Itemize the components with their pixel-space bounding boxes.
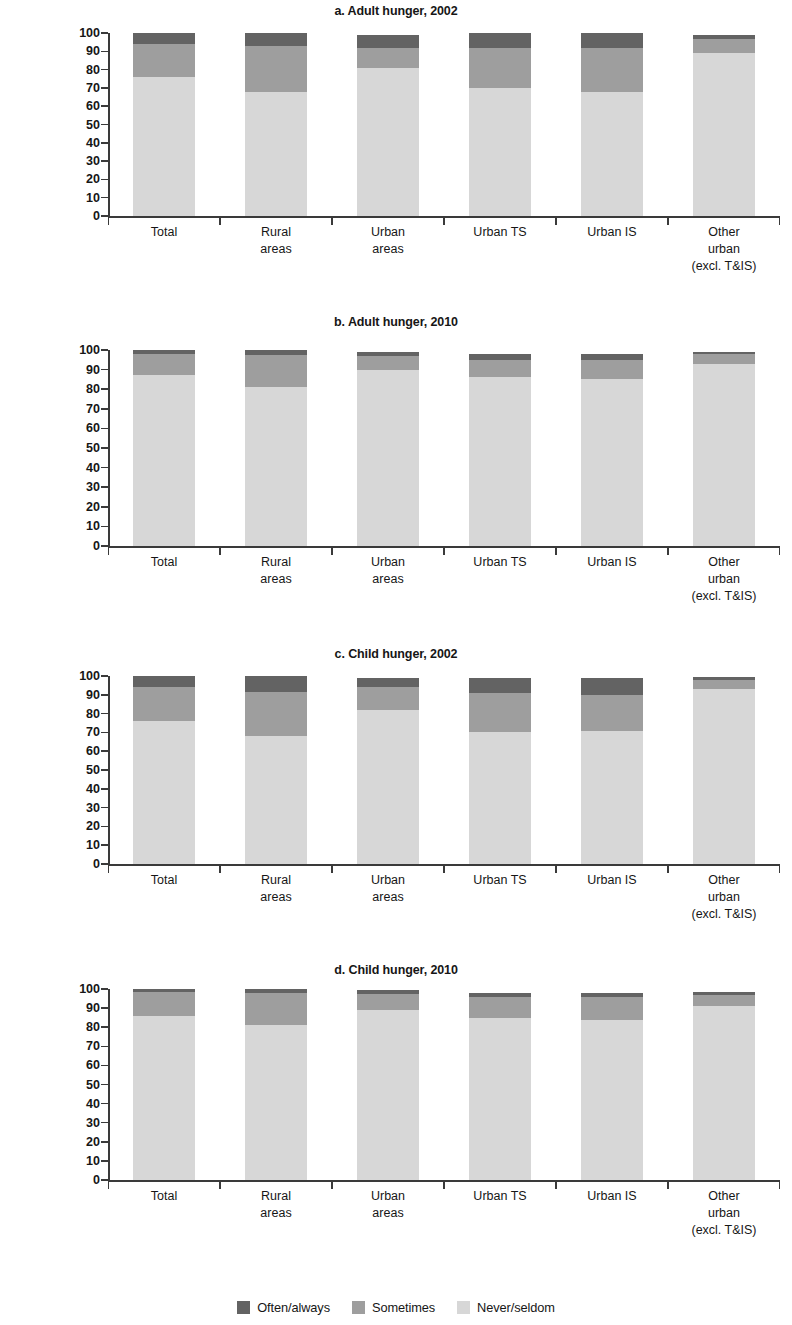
bar-c-5	[693, 676, 755, 864]
x-tick-mark	[108, 866, 109, 873]
y-tick-mark	[101, 369, 108, 371]
y-tick-label: 70	[58, 403, 100, 415]
y-tick-label: 20	[58, 820, 100, 832]
x-tick-mark	[108, 1182, 109, 1189]
segment-never-seldom	[469, 377, 531, 546]
y-tick-mark	[101, 349, 108, 351]
x-tick-label-a-1: Rural areas	[216, 224, 336, 258]
segment-sometimes	[581, 360, 643, 380]
bar-b-0	[133, 350, 195, 546]
legend-swatch-1	[352, 1301, 365, 1314]
y-tick-label: 90	[58, 364, 100, 376]
y-tick-label: 50	[58, 764, 100, 776]
y-tick-mark	[101, 428, 108, 430]
y-tick-mark	[101, 1141, 108, 1143]
y-tick-label: 60	[58, 100, 100, 112]
segment-sometimes	[245, 692, 307, 736]
segment-sometimes	[245, 355, 307, 387]
y-tick-mark	[101, 142, 108, 144]
y-tick-label: 40	[58, 137, 100, 149]
segment-sometimes	[581, 695, 643, 731]
segment-never-seldom	[357, 68, 419, 216]
segment-never-seldom	[693, 53, 755, 216]
bar-a-2	[357, 33, 419, 216]
y-tick-label: 0	[58, 210, 100, 222]
segment-often-always	[581, 678, 643, 695]
x-tick-label-c-4: Urban IS	[552, 872, 672, 889]
segment-sometimes	[693, 995, 755, 1006]
y-tick-label: 30	[58, 1117, 100, 1129]
segment-never-seldom	[469, 88, 531, 216]
bar-c-1	[245, 676, 307, 864]
y-tick-label: 80	[58, 1021, 100, 1033]
segment-never-seldom	[245, 736, 307, 864]
segment-often-always	[357, 678, 419, 687]
y-tick-mark	[101, 1084, 108, 1086]
y-tick-label: 60	[58, 1059, 100, 1071]
y-tick-label: 0	[58, 858, 100, 870]
y-tick-mark	[101, 1160, 108, 1162]
x-tick-label-c-2: Urban areas	[328, 872, 448, 906]
segment-never-seldom	[133, 721, 195, 864]
x-tick-label-d-4: Urban IS	[552, 1188, 672, 1205]
y-tick-mark	[101, 788, 108, 790]
y-axis-line-a	[108, 33, 110, 217]
y-tick-label: 0	[58, 1174, 100, 1186]
x-tick-label-b-2: Urban areas	[328, 554, 448, 588]
segment-sometimes	[133, 687, 195, 721]
bar-b-4	[581, 350, 643, 546]
x-tick-label-b-1: Rural areas	[216, 554, 336, 588]
legend-label-0: Often/always	[257, 1300, 330, 1315]
figure-legend: Often/alwaysSometimesNever/seldom	[0, 1300, 792, 1315]
x-tick-label-d-1: Rural areas	[216, 1188, 336, 1222]
y-tick-mark	[101, 769, 108, 771]
x-tick-label-c-3: Urban TS	[440, 872, 560, 889]
y-tick-mark	[101, 1026, 108, 1028]
y-tick-mark	[101, 1065, 108, 1067]
x-tick-label-d-3: Urban TS	[440, 1188, 560, 1205]
y-tick-mark	[101, 713, 108, 715]
y-tick-label: 100	[58, 983, 100, 995]
y-tick-mark	[101, 388, 108, 390]
y-tick-label: 90	[58, 45, 100, 57]
x-tick-label-a-4: Urban IS	[552, 224, 672, 241]
bar-a-0	[133, 33, 195, 216]
segment-sometimes	[693, 680, 755, 689]
y-tick-mark	[101, 408, 108, 410]
y-tick-mark	[101, 807, 108, 809]
bar-b-1	[245, 350, 307, 546]
y-tick-label: 50	[58, 442, 100, 454]
segment-never-seldom	[245, 1025, 307, 1180]
segment-sometimes	[245, 993, 307, 1025]
y-tick-mark	[101, 160, 108, 162]
y-tick-mark	[101, 1103, 108, 1105]
segment-sometimes	[693, 39, 755, 54]
bar-d-4	[581, 989, 643, 1180]
panel-title-c: c. Child hunger, 2002	[0, 645, 792, 663]
segment-sometimes	[581, 48, 643, 92]
segment-never-seldom	[357, 370, 419, 546]
y-tick-mark	[101, 467, 108, 469]
y-tick-label: 10	[58, 839, 100, 851]
bar-c-4	[581, 676, 643, 864]
y-tick-mark	[101, 526, 108, 528]
y-tick-label: 100	[58, 670, 100, 682]
bar-c-3	[469, 676, 531, 864]
segment-never-seldom	[693, 1006, 755, 1180]
segment-never-seldom	[245, 92, 307, 216]
y-tick-label: 40	[58, 1098, 100, 1110]
legend-label-2: Never/seldom	[477, 1300, 555, 1315]
y-tick-label: 20	[58, 173, 100, 185]
legend-swatch-0	[237, 1301, 250, 1314]
y-tick-label: 10	[58, 1155, 100, 1167]
x-tick-label-a-2: Urban areas	[328, 224, 448, 258]
y-axis-line-d	[108, 989, 110, 1181]
legend-item-2: Never/seldom	[457, 1300, 555, 1315]
bar-b-2	[357, 350, 419, 546]
panel-title-a: a. Adult hunger, 2002	[0, 2, 792, 20]
x-tick-label-c-1: Rural areas	[216, 872, 336, 906]
legend-label-1: Sometimes	[372, 1300, 435, 1315]
y-tick-label: 10	[58, 192, 100, 204]
segment-never-seldom	[581, 379, 643, 546]
segment-never-seldom	[581, 92, 643, 216]
